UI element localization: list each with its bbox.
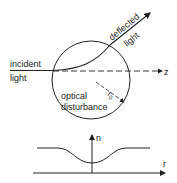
z-axis-label: z: [164, 67, 169, 77]
incident-label: incident: [10, 59, 42, 69]
disturbance-label: disturbance: [61, 102, 108, 112]
optical-deflection-diagram: incident light deflected light z optical…: [0, 0, 177, 183]
r-axis-label: r: [163, 159, 166, 169]
optical-label: optical: [61, 91, 87, 101]
n-axis-label: n: [96, 133, 101, 143]
refractive-index-profile: [37, 148, 150, 163]
radius-label: r0: [105, 89, 116, 101]
incident-light-label: light: [10, 73, 27, 83]
